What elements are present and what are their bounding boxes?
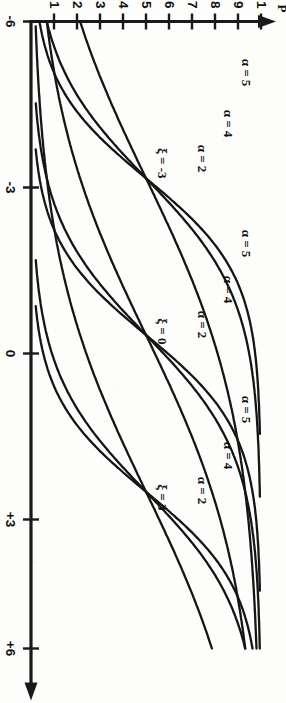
label-alpha-4-c: α = 4 <box>221 441 236 469</box>
y-axis-name: P <box>275 4 286 12</box>
label-alpha-2-c: α = 2 <box>195 476 210 504</box>
y-tick-label-0.9: 0.9 <box>231 0 246 8</box>
y-tick-label-1: 1 <box>254 0 269 8</box>
label-alpha-2-a: α = 2 <box>195 144 210 172</box>
label-xi-neg3: ξ = -3 <box>155 147 170 178</box>
label-alpha-4-b: α = 4 <box>221 275 236 303</box>
curve <box>36 260 245 648</box>
y-tick-label-0.1: 0.1 <box>47 0 62 8</box>
y-tick-label-0.6: 0.6 <box>162 0 177 8</box>
x-tick-label-6: +6 <box>3 640 18 656</box>
x-tick-label--3: -3 <box>3 181 18 193</box>
curve <box>36 149 260 590</box>
label-alpha-5-c: α = 5 <box>239 395 254 423</box>
label-xi-0: ξ = 0 <box>155 318 170 344</box>
figure-rotator: -6 -3 0 +3 +6 0.1 0.2 0.3 <box>0 0 286 703</box>
x-tick-label-0: 0 <box>3 349 18 357</box>
x-axis-arrow <box>25 682 38 700</box>
curve <box>40 21 260 433</box>
x-tick-label-3: +3 <box>3 511 18 527</box>
label-xi-3: ξ = 3 <box>155 484 170 511</box>
label-alpha-4-a: α = 4 <box>221 109 236 137</box>
y-axis-arrow <box>258 15 276 28</box>
x-ticks: -6 -3 0 +3 +6 <box>3 15 39 656</box>
chart-svg: -6 -3 0 +3 +6 0.1 0.2 0.3 <box>0 0 286 703</box>
y-tick-label-0.7: 0.7 <box>185 0 200 8</box>
y-tick-label-0.5: 0.5 <box>139 0 154 8</box>
curve <box>36 306 253 648</box>
label-alpha-5-b: α = 5 <box>239 229 254 257</box>
y-tick-label-0.2: 0.2 <box>70 0 85 8</box>
label-alpha-5-a: α = 5 <box>239 58 254 86</box>
plot-area: -6 -3 0 +3 +6 0.1 0.2 0.3 <box>0 0 286 703</box>
y-tick-label-0.8: 0.8 <box>208 0 223 8</box>
y-tick-label-0.4: 0.4 <box>116 0 131 8</box>
curve <box>47 21 260 496</box>
y-tick-label-0.3: 0.3 <box>93 0 108 8</box>
curve <box>36 26 212 648</box>
x-tick-label--6: -6 <box>3 15 18 27</box>
curve <box>36 103 260 648</box>
label-alpha-2-b: α = 2 <box>195 310 210 338</box>
